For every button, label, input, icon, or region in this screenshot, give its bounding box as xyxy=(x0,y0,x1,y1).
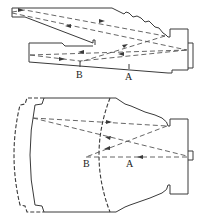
focal-arc xyxy=(99,98,110,212)
ray-5 xyxy=(30,50,187,61)
ray-4 xyxy=(30,50,187,55)
ray-1 xyxy=(33,118,167,126)
upper-wedge-left xyxy=(12,8,95,45)
lower-body-outline xyxy=(29,43,172,73)
bottom-diagram: B A xyxy=(14,98,193,212)
arrow-icon xyxy=(99,19,105,23)
emitter-box xyxy=(188,43,193,68)
arrow-icon xyxy=(105,136,111,140)
label-b: B xyxy=(76,69,83,80)
tapered-body xyxy=(110,98,188,212)
top-diagram: B A xyxy=(12,8,193,82)
label-b: B xyxy=(83,158,90,169)
emitter-box xyxy=(188,151,193,160)
outer-dashed-shell xyxy=(14,98,44,212)
label-a: A xyxy=(126,158,134,169)
ray-3 xyxy=(86,126,167,157)
optical-path-diagram: B A B A xyxy=(0,0,205,222)
ray-1 xyxy=(12,10,165,36)
primary-mirror-frame xyxy=(30,98,110,212)
label-a: A xyxy=(125,71,133,82)
arrow-icon xyxy=(59,57,65,61)
arrow-icon xyxy=(137,155,143,159)
arrow-icon xyxy=(122,44,128,48)
ray-2 xyxy=(12,13,187,50)
arrow-icon xyxy=(106,120,112,124)
upper-wedge-outline xyxy=(12,8,188,73)
arrow-icon xyxy=(18,8,24,12)
